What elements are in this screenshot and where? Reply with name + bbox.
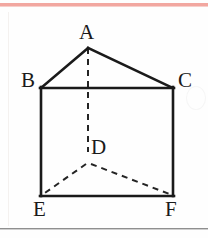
- vertex-label-e: E: [33, 199, 46, 220]
- bottom-page-rule-shadow: [0, 229, 208, 230]
- edge-D-E-dashed: [42, 164, 86, 195]
- edge-A-C: [88, 48, 173, 88]
- triangular-prism-drawing: [0, 0, 208, 238]
- vertex-label-b: B: [21, 70, 35, 91]
- vertex-label-f: F: [165, 199, 177, 220]
- vertex-label-c: C: [178, 70, 192, 91]
- edge-B-A: [41, 48, 88, 88]
- vertex-label-d: D: [91, 137, 106, 158]
- edge-D-F-dashed: [91, 164, 172, 195]
- geometry-figure-page: A B C D E F: [0, 0, 208, 238]
- vertex-label-a: A: [79, 22, 94, 43]
